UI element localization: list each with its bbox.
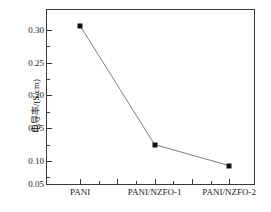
series-line xyxy=(47,10,254,184)
plot-frame: 0.30 0.25 0.20 0.15 0.10 0.05 xyxy=(46,9,255,185)
data-point-marker xyxy=(78,23,83,28)
y-tick-label: 0.15 xyxy=(28,124,44,133)
x-tick-label-pani: PANI xyxy=(70,188,90,197)
y-tick-label: 0.25 xyxy=(28,58,44,67)
y-tick-label: 0.20 xyxy=(28,91,44,100)
y-tick-label: 0.05 xyxy=(28,180,44,189)
data-point-marker xyxy=(152,142,157,147)
conductivity-line-chart: 电导率/(S/cm) 0.30 0.25 0.20 0.15 0.10 0.05 xyxy=(0,0,271,212)
x-tick-label-pani-nzfo-1: PANI/NZFO-1 xyxy=(128,188,182,197)
y-tick-major xyxy=(47,184,52,185)
y-tick-label: 0.30 xyxy=(28,25,44,34)
x-tick-label-pani-nzfo-2: PANI/NZFO-2 xyxy=(202,188,256,197)
y-tick-label: 0.10 xyxy=(28,157,44,166)
data-point-marker xyxy=(227,163,232,168)
plot-inner: 0.30 0.25 0.20 0.15 0.10 0.05 xyxy=(47,10,254,184)
